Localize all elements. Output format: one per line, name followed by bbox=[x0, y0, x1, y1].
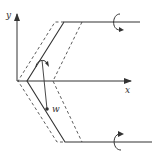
beam-diagram: y x w bbox=[0, 0, 160, 158]
x-axis-label: x bbox=[125, 85, 130, 95]
beam-centerline bbox=[27, 22, 152, 142]
displacement-label: w bbox=[52, 104, 60, 114]
beam-left-edge-dashed bbox=[18, 22, 65, 142]
top-moment-icon bbox=[114, 14, 124, 32]
displacement-vector-w bbox=[42, 60, 49, 111]
beam-right-edge-dashed bbox=[53, 22, 82, 142]
bottom-moment-icon bbox=[114, 131, 124, 150]
y-axis-label: y bbox=[5, 10, 12, 20]
